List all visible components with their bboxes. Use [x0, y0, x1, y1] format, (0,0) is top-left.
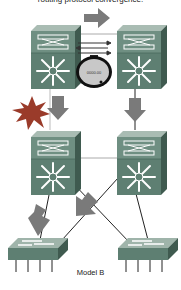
traffic-arrow-right-icon [84, 8, 110, 28]
traffic-arrow-down-right-icon [124, 98, 146, 122]
access-switch-left [8, 238, 68, 272]
network-diagram: 0000.00 [0, 0, 181, 290]
core-switch-right [117, 25, 167, 89]
link-dist-right-access-right [135, 190, 148, 240]
dist-switch-left [31, 131, 81, 195]
core-switch-left [31, 25, 81, 89]
stopwatch-display: 0000.00 [87, 70, 102, 75]
exchange-arrows-icon [76, 41, 111, 55]
link-failure-burst-icon [12, 96, 50, 130]
access-switch-right [118, 238, 178, 272]
traffic-arrow-cross-icon [76, 192, 98, 216]
dist-switch-right [117, 131, 167, 195]
diagram-caption: Model B [0, 268, 181, 277]
